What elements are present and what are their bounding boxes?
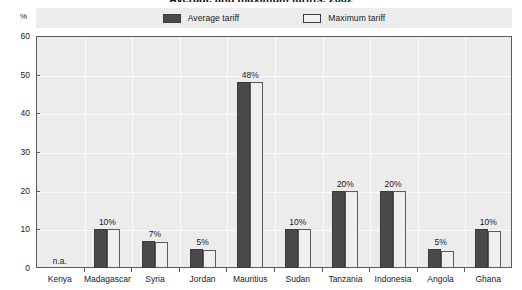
bar-average-tariff[interactable] [475, 229, 488, 268]
bar-group[interactable]: 20% [322, 36, 370, 268]
bar-average-tariff[interactable] [380, 191, 393, 268]
bar-maximum-tariff[interactable] [488, 231, 501, 268]
bar-value-label: 10% [99, 217, 116, 227]
x-axis-category-label: Tanzania [328, 274, 362, 284]
x-axis-tick-mark [179, 268, 180, 272]
legend-swatch-maximum-tariff [303, 14, 321, 23]
bar-value-label: 5% [196, 237, 208, 247]
x-axis-category-label: Indonesia [375, 274, 412, 284]
x-axis-category-label: Angola [427, 274, 453, 284]
bar-group[interactable]: 5% [179, 36, 227, 268]
x-axis-category-label: Madagascar [84, 274, 131, 284]
legend-label-maximum-tariff: Maximum tariff [328, 13, 385, 23]
legend-item-average-tariff[interactable]: Average tariff [163, 13, 240, 23]
bar-value-label: n.a. [53, 256, 67, 266]
bar-average-tariff[interactable] [332, 191, 345, 268]
bar-average-tariff[interactable] [94, 229, 107, 268]
bar-group[interactable]: 5% [417, 36, 465, 268]
bar-value-label: 10% [289, 217, 306, 227]
x-axis-category-label: Kenya [48, 274, 72, 284]
x-axis-tick-mark [84, 268, 85, 272]
bar-maximum-tariff[interactable] [345, 191, 358, 268]
bar-maximum-tariff[interactable] [298, 229, 311, 268]
bar-group[interactable]: 10% [274, 36, 322, 268]
x-axis-tick-mark [131, 268, 132, 272]
chart-legend: Average tariff Maximum tariff [36, 8, 512, 28]
y-axis-unit-label: % [20, 12, 27, 21]
x-axis-category-label: Syria [145, 274, 164, 284]
x-axis-tick-mark [274, 268, 275, 272]
bar-maximum-tariff[interactable] [393, 191, 406, 268]
legend-label-average-tariff: Average tariff [188, 13, 240, 23]
bar-average-tariff[interactable] [428, 249, 441, 268]
bar-value-label: 5% [434, 237, 446, 247]
y-axis-tick-label: 60 [0, 31, 30, 41]
bar-value-label: 20% [384, 179, 401, 189]
x-axis-category-label: Sudan [286, 274, 311, 284]
y-axis-tick-label: 40 [0, 108, 30, 118]
x-axis-tick-mark [464, 268, 465, 272]
bar-group[interactable]: 48% [226, 36, 274, 268]
y-axis-tick-label: 50 [0, 70, 30, 80]
bar-group[interactable]: 7% [131, 36, 179, 268]
bar-group[interactable]: 20% [369, 36, 417, 268]
bar-maximum-tariff[interactable] [155, 242, 168, 268]
bar-group[interactable]: 10% [84, 36, 132, 268]
bar-average-tariff[interactable] [142, 241, 155, 268]
bar-maximum-tariff[interactable] [441, 251, 454, 268]
y-axis-tick-label: 0 [0, 263, 30, 273]
bar-maximum-tariff[interactable] [250, 82, 263, 268]
bar-maximum-tariff[interactable] [203, 250, 216, 268]
chart-title: Average and maximum tariffs, 2002 [0, 0, 522, 2]
x-axis-category-label: Mauritius [233, 274, 267, 284]
x-axis-tick-mark [369, 268, 370, 272]
bar-value-label: 48% [242, 70, 259, 80]
legend-item-maximum-tariff[interactable]: Maximum tariff [303, 13, 385, 23]
x-axis-tick-mark [417, 268, 418, 272]
bar-average-tariff[interactable] [190, 249, 203, 268]
bar-group[interactable]: 10% [464, 36, 512, 268]
x-axis-tick-mark [322, 268, 323, 272]
bar-group[interactable]: n.a. [36, 36, 84, 268]
y-axis-tick-label: 10 [0, 224, 30, 234]
x-axis-tick-mark [226, 268, 227, 272]
bar-average-tariff[interactable] [285, 229, 298, 268]
bar-maximum-tariff[interactable] [107, 229, 120, 268]
bar-value-label: 7% [149, 229, 161, 239]
bar-average-tariff[interactable] [237, 82, 250, 268]
x-axis-category-label: Ghana [475, 274, 501, 284]
bar-value-label: 20% [337, 179, 354, 189]
legend-swatch-average-tariff [163, 14, 181, 23]
x-axis-category-label: Jordan [190, 274, 216, 284]
y-axis-tick-label: 20 [0, 186, 30, 196]
bar-value-label: 10% [480, 217, 497, 227]
y-axis-tick-label: 30 [0, 147, 30, 157]
